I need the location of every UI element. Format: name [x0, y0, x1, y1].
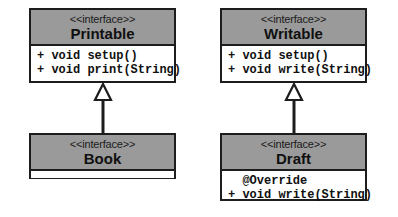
- uml-class-printable-name: Printable: [33, 25, 172, 42]
- uml-class-draft-header: <<interface>> Draft: [222, 135, 365, 171]
- uml-class-draft-name: Draft: [224, 150, 363, 167]
- uml-class-book-stereotype: <<interface>>: [33, 138, 172, 150]
- generalization-arrow-svg: [92, 82, 114, 134]
- uml-member: + void setup(): [37, 49, 168, 63]
- uml-class-writable-header: <<interface>> Writable: [222, 10, 365, 46]
- uml-class-book[interactable]: <<interface>> Book: [29, 133, 176, 179]
- uml-member: + void setup(): [228, 49, 359, 63]
- uml-class-printable-members: + void setup() + void print(String): [31, 46, 174, 81]
- uml-class-writable-name: Writable: [224, 25, 363, 42]
- uml-class-diagram-canvas: <<interface>> Printable + void setup() +…: [0, 0, 398, 217]
- generalization-draft-to-writable: [283, 82, 305, 134]
- uml-class-printable-header: <<interface>> Printable: [31, 10, 174, 46]
- uml-class-book-name: Book: [33, 150, 172, 167]
- uml-class-writable-stereotype: <<interface>>: [224, 13, 363, 25]
- uml-class-book-header: <<interface>> Book: [31, 135, 174, 171]
- uml-class-printable-stereotype: <<interface>>: [33, 13, 172, 25]
- hollow-triangle-arrowhead-icon: [95, 84, 111, 100]
- uml-class-draft[interactable]: <<interface>> Draft @Override + void wri…: [220, 133, 367, 201]
- uml-member: + void write(String): [228, 63, 359, 77]
- hollow-triangle-arrowhead-icon: [286, 84, 302, 100]
- generalization-book-to-printable: [92, 82, 114, 134]
- uml-class-draft-members: @Override + void write(String): [222, 171, 365, 199]
- uml-class-writable[interactable]: <<interface>> Writable + void setup() + …: [220, 8, 367, 83]
- uml-class-writable-members: + void setup() + void write(String): [222, 46, 365, 81]
- uml-member-annotation: @Override: [228, 174, 359, 188]
- uml-class-draft-stereotype: <<interface>>: [224, 138, 363, 150]
- uml-member: + void print(String): [37, 63, 168, 77]
- uml-class-book-members: [31, 171, 174, 178]
- uml-member: + void write(String): [228, 188, 359, 202]
- uml-class-printable[interactable]: <<interface>> Printable + void setup() +…: [29, 8, 176, 83]
- generalization-arrow-svg: [283, 82, 305, 134]
